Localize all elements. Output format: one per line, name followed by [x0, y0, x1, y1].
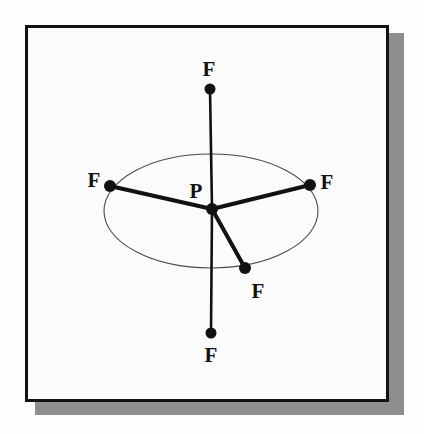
atom-label-f-axial-top: F — [203, 59, 216, 80]
atom-dot-f-equatorial-front — [239, 262, 251, 274]
atom-dot-p-center — [206, 203, 218, 215]
bond-axial-bottom — [211, 209, 212, 333]
atom-label-f-axial-bottom: F — [205, 345, 218, 366]
atom-label-p-center: P — [190, 181, 203, 202]
bond-axial-top — [210, 89, 212, 209]
atom-label-f-equatorial-right: F — [321, 172, 334, 193]
atom-dot-f-axial-top — [205, 84, 216, 95]
atom-label-f-equatorial-front: F — [252, 281, 265, 302]
bond-equatorial-right — [212, 185, 310, 209]
atom-label-f-equatorial-left: F — [88, 170, 101, 191]
atom-dot-f-equatorial-right — [304, 179, 316, 191]
atom-dot-f-equatorial-left — [104, 180, 116, 192]
diagram-page: F F F F F P — [0, 0, 424, 434]
atom-dot-f-axial-bottom — [206, 328, 217, 339]
bond-equatorial-front — [212, 209, 245, 268]
